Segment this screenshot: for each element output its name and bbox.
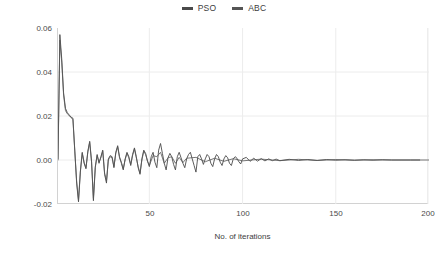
gridlines — [58, 28, 429, 204]
y-tick-label: 0.02 — [8, 113, 52, 121]
series-line-pso — [58, 35, 420, 202]
series-line-abc — [58, 40, 429, 200]
y-tick-label: 0.06 — [8, 25, 52, 33]
legend-swatch-pso-icon — [182, 7, 193, 10]
plot-canvas — [58, 28, 429, 204]
x-tick-label: 100 — [223, 210, 263, 218]
y-tick-label: 0.00 — [8, 157, 52, 165]
x-tick-label: 200 — [408, 210, 448, 218]
legend-swatch-abc-icon — [232, 7, 243, 10]
series-lines — [58, 35, 429, 202]
legend-label-pso: PSO — [198, 4, 217, 13]
legend-entry-abc: ABC — [232, 4, 266, 13]
chart-figure: PSO ABC Values of x1 variable No. of ite… — [0, 0, 448, 254]
x-tick-label: 50 — [130, 210, 170, 218]
x-tick-label: 150 — [316, 210, 356, 218]
x-axis-title: No. of iterations — [57, 232, 428, 241]
legend-label-abc: ABC — [248, 4, 266, 13]
plot-area — [57, 28, 428, 204]
chart-legend: PSO ABC — [0, 4, 448, 13]
y-tick-label: -0.02 — [8, 201, 52, 209]
y-tick-label: 0.04 — [8, 69, 52, 77]
legend-entry-pso: PSO — [182, 4, 217, 13]
